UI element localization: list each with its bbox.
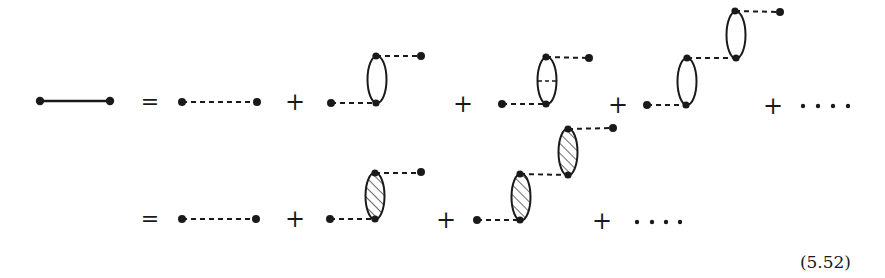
hatched-bubble <box>366 173 385 220</box>
ellipsis-row-1 <box>801 104 850 108</box>
full-propagator <box>37 98 113 104</box>
equation-number: (5.52) <box>800 252 851 272</box>
plus-sign: + <box>763 92 783 120</box>
hatched-bubble <box>559 129 578 176</box>
ellipsis-row-2 <box>635 220 682 224</box>
hatched-bubble <box>512 174 531 221</box>
bare-propagator <box>179 216 259 222</box>
plus-sign: + <box>436 206 456 234</box>
bubble-with-internal-exchange-term <box>499 54 592 107</box>
plus-sign: + <box>592 207 612 235</box>
feynman-diagram-equation: = + + + + = + + + (5.52) <box>0 0 885 278</box>
plus-sign: + <box>453 90 473 118</box>
equals-sign: = <box>141 206 159 231</box>
equals-sign: = <box>141 89 159 114</box>
single-hatched-bubble-term <box>327 169 424 222</box>
bubble <box>678 58 697 105</box>
plus-sign: + <box>285 88 305 116</box>
plus-sign: + <box>608 91 628 119</box>
single-bubble-term <box>328 53 424 106</box>
bare-propagator <box>179 99 260 105</box>
bubble <box>727 12 746 59</box>
bubble <box>368 56 387 103</box>
plus-sign: + <box>285 205 305 233</box>
